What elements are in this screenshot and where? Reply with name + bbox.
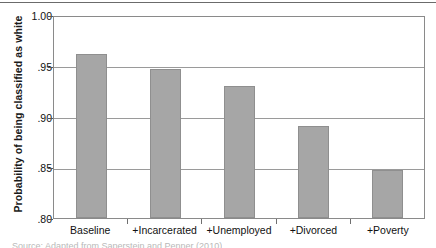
x-tick-label-4: +Divorced	[276, 224, 350, 236]
bar-cell	[54, 17, 128, 218]
y-tick-mark-5	[48, 219, 53, 220]
y-tick-label-3: .90	[12, 112, 52, 124]
bar-series	[54, 17, 424, 218]
bar-baseline[interactable]	[76, 54, 107, 218]
page-rule-divider	[0, 2, 436, 3]
y-tick-label-4: .85	[12, 162, 52, 174]
bar-cell	[276, 17, 350, 218]
source-caption: Source: Adapted from Saperstein and Penn…	[12, 241, 222, 248]
y-axis-ticks: 1.00 .95 .90 .85 .80	[0, 0, 52, 248]
x-tick-label-2: +Incarcerated	[127, 224, 201, 236]
bar-poverty[interactable]	[372, 170, 403, 218]
x-tick-label-3: +Unemployed	[202, 224, 276, 236]
plot-area	[53, 16, 425, 219]
bar-cell	[128, 17, 202, 218]
bar-divorced[interactable]	[298, 126, 329, 218]
bar-incarcerated[interactable]	[150, 69, 181, 218]
figure-container: Probability of being classified as white…	[0, 0, 436, 248]
x-tick-label-5: +Poverty	[351, 224, 425, 236]
x-tick-label-1: Baseline	[53, 224, 127, 236]
bar-cell	[350, 17, 424, 218]
x-axis-labels: Baseline+Incarcerated+Unemployed+Divorce…	[53, 224, 425, 236]
y-tick-label-1: 1.00	[12, 10, 52, 22]
y-tick-label-2: .95	[12, 61, 52, 73]
bar-unemployed[interactable]	[224, 86, 255, 218]
y-tick-label-5: .80	[12, 213, 52, 225]
bar-cell	[202, 17, 276, 218]
